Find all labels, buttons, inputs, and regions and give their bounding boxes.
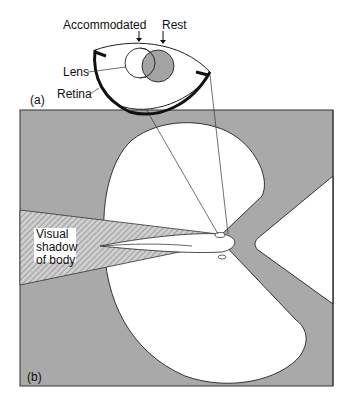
panel-a-eye — [95, 43, 210, 114]
bird-eye-marker-lower — [218, 255, 226, 259]
shadow-label-line-1: Visual — [36, 227, 68, 241]
shadow-label-line-2: shadow — [36, 240, 78, 254]
label-lens: Lens — [63, 65, 89, 79]
label-rest: Rest — [162, 18, 187, 32]
arrow-accommodated-head — [136, 38, 142, 42]
bird-eye-marker — [215, 233, 225, 238]
arrow-rest-head — [160, 40, 166, 44]
panel-b: Visual shadow of body (b) — [20, 110, 333, 386]
panel-a-label: (a) — [30, 93, 45, 107]
panel-b-label: (b) — [27, 370, 42, 384]
lens-rest — [142, 50, 174, 82]
shadow-label-line-3: of body — [36, 253, 75, 267]
label-retina: Retina — [57, 87, 92, 101]
figure-canvas: Visual shadow of body (b) Accommodated R… — [0, 0, 346, 401]
label-accommodated: Accommodated — [63, 18, 146, 32]
